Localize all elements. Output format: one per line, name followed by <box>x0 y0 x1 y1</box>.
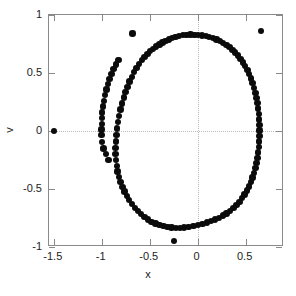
data-point-outlier <box>171 238 177 244</box>
x-tick-label: -0.5 <box>139 250 158 262</box>
data-point <box>115 119 121 125</box>
data-point <box>116 113 122 119</box>
data-point <box>117 106 123 112</box>
y-tick-label: 0.5 <box>27 66 42 78</box>
y-tick-mark <box>276 247 282 248</box>
data-point-outlier <box>51 128 57 134</box>
data-point <box>114 125 120 131</box>
x-tick-label: 0 <box>194 250 200 262</box>
data-point <box>99 115 105 121</box>
data-point-outlier <box>258 28 264 34</box>
data-points-layer <box>49 15 282 245</box>
data-point <box>115 57 121 63</box>
data-point <box>99 109 105 115</box>
y-tick-label: -0.5 <box>23 182 42 194</box>
y-tick-label: -1 <box>32 240 42 252</box>
y-axis-title: v <box>3 127 15 133</box>
data-point <box>105 157 111 163</box>
scatter-plot-figure: v -1.5-1-0.500.5 -1-0.500.51 x <box>0 0 296 296</box>
x-tick-label: 0.5 <box>237 250 252 262</box>
x-tick-label: -1.5 <box>43 250 62 262</box>
data-point <box>100 103 106 109</box>
data-point <box>103 86 109 92</box>
data-point <box>101 98 107 104</box>
x-tick-label: -1 <box>96 250 106 262</box>
plot-area <box>48 14 283 246</box>
data-point <box>185 224 191 230</box>
data-point <box>98 132 104 138</box>
data-point <box>113 138 119 144</box>
x-axis-title: x <box>0 268 296 280</box>
y-tick-mark <box>49 247 55 248</box>
y-tick-label: 0 <box>36 124 42 136</box>
data-point <box>113 132 119 138</box>
y-tick-label: 1 <box>36 8 42 20</box>
data-point <box>102 92 108 98</box>
data-point-outlier <box>129 30 135 36</box>
